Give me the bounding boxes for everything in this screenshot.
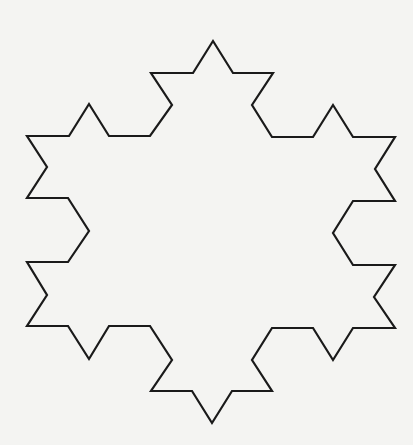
figure-canvas: Koch snowflake (second iteration) (0, 0, 413, 445)
koch-snowflake-outline (27, 41, 395, 423)
koch-snowflake-diagram (0, 0, 413, 445)
